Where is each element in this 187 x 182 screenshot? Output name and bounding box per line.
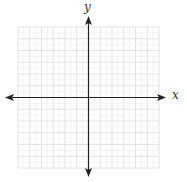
- x-axis-label: x: [172, 89, 179, 101]
- coordinate-plane: [0, 0, 187, 182]
- y-axis-label: y: [84, 1, 91, 13]
